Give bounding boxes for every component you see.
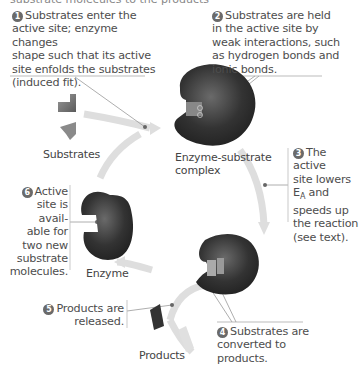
leader-5 xyxy=(127,305,172,311)
enzyme-label: Enzyme xyxy=(86,267,129,280)
leader-3-dot xyxy=(263,183,267,187)
bound-product-1 xyxy=(207,260,216,276)
step-1-badge: 1 xyxy=(12,11,23,22)
arrow-from-enzyme xyxy=(100,134,140,178)
enzyme-product-complex xyxy=(196,234,259,294)
step-2-badge: 2 xyxy=(212,11,223,22)
arrowhead-2 xyxy=(258,222,270,235)
complex-label-line2: complex xyxy=(175,164,220,177)
step-3-caption: 3The active site lowers EA and speeds up… xyxy=(293,146,359,244)
substrates-label: Substrates xyxy=(43,148,100,161)
step-4-caption: 4Substrates are converted to products. xyxy=(217,325,357,365)
substrate-shape-2 xyxy=(60,122,76,140)
substrate-shape-1 xyxy=(58,94,76,112)
arrow-products-out xyxy=(170,285,205,320)
step-2-caption: 2Substrates are held in the active site … xyxy=(212,9,357,76)
step-5-caption: 5Products are released. xyxy=(30,302,124,329)
leader-5-dot xyxy=(170,303,174,307)
arrow-substrates-in xyxy=(84,114,150,128)
step-3-badge: 3 xyxy=(293,148,304,159)
step-1-caption: 1Substrates enter the active site; enzym… xyxy=(12,9,162,89)
step-6-caption: 6Active site is avail- able for two new … xyxy=(2,185,68,279)
step-4-badge: 4 xyxy=(217,327,228,338)
step-6-badge: 6 xyxy=(22,187,33,198)
leader-1-dot xyxy=(143,125,147,129)
complex-label-line1: Enzyme-substrate xyxy=(175,151,272,164)
bound-substrates xyxy=(186,102,202,116)
step-5-badge: 5 xyxy=(43,304,54,315)
products-label: Products xyxy=(139,349,185,362)
arrowhead-1 xyxy=(150,122,161,135)
free-enzyme xyxy=(81,192,133,260)
bound-product-2 xyxy=(217,258,224,274)
